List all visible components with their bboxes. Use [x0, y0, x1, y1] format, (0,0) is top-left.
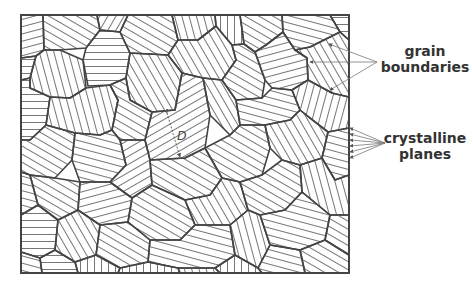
- crystalline-planes-label: crystalline planes: [380, 130, 470, 162]
- grain-boundaries-label-line2: boundaries: [380, 59, 470, 75]
- grain: [30, 50, 86, 98]
- grain: [21, 15, 44, 58]
- grains: [21, 15, 349, 273]
- crystalline-planes-label-line1: crystalline: [380, 130, 470, 146]
- grain-boundaries-label-line1: grain: [380, 43, 470, 59]
- diameter-label: D: [177, 128, 186, 143]
- grain-boundaries-label: grain boundaries: [380, 43, 470, 75]
- crystalline-planes-label-line2: planes: [380, 146, 470, 162]
